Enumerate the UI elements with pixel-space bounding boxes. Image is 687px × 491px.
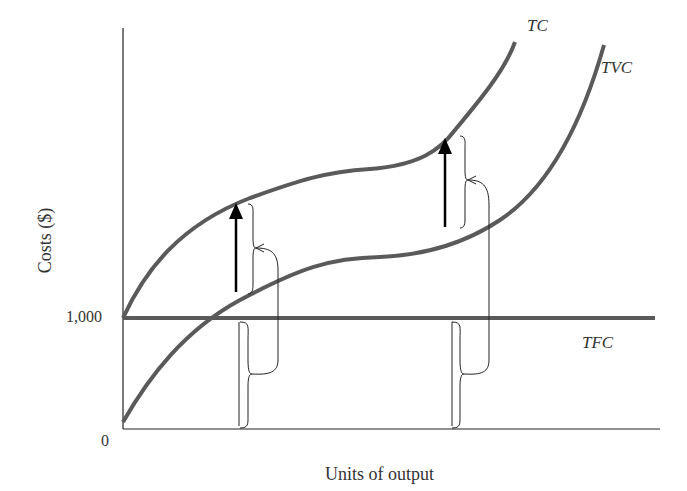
tvc-curve [123,45,604,422]
tc-label: TC [527,16,548,36]
tfc-label: TFC [582,333,613,353]
bracket-group-right [452,136,489,428]
tvc-label: TVC [601,58,632,78]
y-tick-0: 0 [101,432,109,450]
x-axis-label: Units of output [325,464,434,485]
cost-curves-chart [0,0,687,491]
y-tick-1000: 1,000 [66,308,102,326]
tc-curve [123,42,515,318]
y-axis-label: Costs ($) [35,191,56,291]
